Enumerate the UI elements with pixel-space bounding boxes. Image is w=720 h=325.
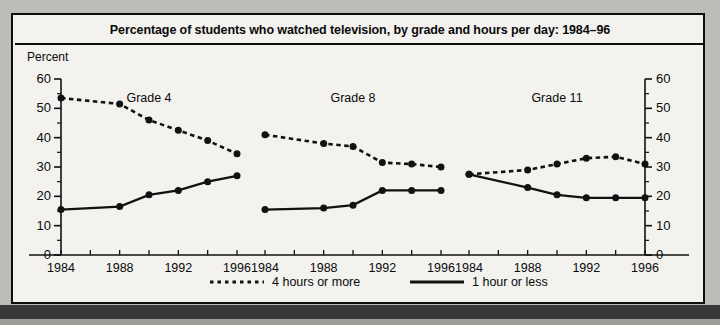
- y-tick-label-right-60: 60: [656, 71, 684, 86]
- data-point-grade-8-1990: [350, 202, 357, 209]
- data-point-grade-8-1994: [408, 161, 415, 168]
- legend-label: 4 hours or more: [272, 275, 360, 289]
- legend-item-one-hour-or-less: 1 hour or less: [409, 275, 548, 289]
- data-point-grade-11-1992: [583, 194, 590, 201]
- page-gutter-band: [0, 305, 720, 319]
- y-tick-label-left-60: 60: [23, 71, 51, 86]
- data-point-grade-8-1988: [320, 140, 327, 147]
- y-tick-label-left-0: 0: [23, 247, 51, 262]
- chart-plot-area: [13, 15, 703, 303]
- data-point-grade-8-1996: [438, 164, 445, 171]
- data-point-grade-11-1990: [554, 191, 561, 198]
- data-point-grade-8-1992: [379, 159, 386, 166]
- figure-frame: Percentage of students who watched telev…: [11, 13, 705, 304]
- data-point-grade-8-1992: [379, 187, 386, 194]
- y-tick-label-left-20: 20: [23, 188, 51, 203]
- data-point-grade-8-1990: [350, 143, 357, 150]
- series-line-grade-4-dotted: [61, 98, 237, 154]
- legend-swatch-dotted: [209, 277, 265, 287]
- y-tick-label-left-30: 30: [23, 159, 51, 174]
- y-tick-label-left-40: 40: [23, 130, 51, 145]
- data-point-grade-11-1990: [554, 161, 561, 168]
- data-point-grade-11-1984: [466, 171, 473, 178]
- y-tick-label-right-50: 50: [656, 100, 684, 115]
- data-point-grade-4-1994: [204, 137, 211, 144]
- data-point-grade-4-1992: [175, 127, 182, 134]
- data-point-grade-11-1994: [612, 194, 619, 201]
- panel-title-grade-8: Grade 8: [313, 91, 393, 105]
- data-point-grade-4-1992: [175, 187, 182, 194]
- figure-root: Percentage of students who watched telev…: [0, 0, 720, 325]
- data-point-grade-11-1988: [524, 166, 531, 173]
- data-point-grade-4-1990: [146, 191, 153, 198]
- data-point-grade-4-1984: [58, 95, 65, 102]
- y-tick-label-right-30: 30: [656, 159, 684, 174]
- page-gutter-band-lower: [0, 319, 720, 325]
- legend-swatch-solid: [409, 277, 465, 287]
- y-tick-label-right-0: 0: [656, 247, 684, 262]
- chart-legend: 4 hours or more1 hour or less: [13, 273, 707, 297]
- y-tick-label-left-10: 10: [23, 218, 51, 233]
- data-point-grade-8-1984: [262, 131, 269, 138]
- y-tick-label-right-40: 40: [656, 130, 684, 145]
- data-point-grade-11-1996: [642, 194, 649, 201]
- data-point-grade-4-1984: [58, 206, 65, 213]
- y-tick-label-right-10: 10: [656, 218, 684, 233]
- data-point-grade-8-1988: [320, 205, 327, 212]
- data-point-grade-11-1996: [642, 161, 649, 168]
- data-point-grade-4-1996: [234, 172, 241, 179]
- data-point-grade-11-1988: [524, 184, 531, 191]
- data-point-grade-11-1992: [583, 155, 590, 162]
- panel-title-grade-4: Grade 4: [109, 91, 189, 105]
- panel-title-grade-11: Grade 11: [517, 91, 597, 105]
- data-point-grade-4-1988: [116, 203, 123, 210]
- data-point-grade-8-1994: [408, 187, 415, 194]
- data-point-grade-4-1996: [234, 150, 241, 157]
- data-point-grade-8-1984: [262, 206, 269, 213]
- data-point-grade-4-1990: [146, 117, 153, 124]
- legend-item-four-hours-or-more: 4 hours or more: [209, 275, 360, 289]
- data-point-grade-4-1994: [204, 178, 211, 185]
- y-tick-label-right-20: 20: [656, 188, 684, 203]
- data-point-grade-11-1994: [612, 153, 619, 160]
- data-point-grade-8-1996: [438, 187, 445, 194]
- legend-label: 1 hour or less: [472, 275, 548, 289]
- y-tick-label-left-50: 50: [23, 100, 51, 115]
